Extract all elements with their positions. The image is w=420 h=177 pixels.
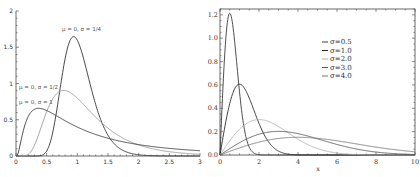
legend-label: σ=4.0	[330, 72, 352, 80]
x-tick-label: 6	[335, 158, 339, 166]
x-tick-label: 0.5	[42, 158, 52, 165]
x-tick-label: 4	[296, 158, 300, 166]
legend-label: σ=1.0	[330, 47, 352, 55]
y-tick-label: 1.2	[208, 11, 218, 19]
rayleigh-chart: 02468100.00.20.40.60.81.01.2 σ=0.5σ=1.0σ…	[208, 9, 419, 173]
y-tick-label: 1.0	[208, 34, 218, 42]
rayleigh-curve-3	[220, 120, 415, 155]
y-tick-label: 0	[9, 152, 13, 159]
y-tick-label: 1.5	[3, 43, 13, 50]
curve-annotation: μ = 0, σ = 1/2	[19, 84, 58, 91]
y-tick-label: 0.8	[208, 58, 218, 66]
y-tick-label: 1	[9, 80, 13, 87]
rayleigh-legend: σ=0.5σ=1.0σ=2.0σ=3.0σ=4.0	[322, 38, 352, 80]
rayleigh-curves	[220, 13, 415, 155]
x-tick-label: 0	[14, 158, 18, 165]
plot-frame	[220, 9, 415, 155]
x-tick-label: 1	[75, 158, 79, 165]
legend-label: σ=0.5	[330, 38, 352, 46]
y-tick-label: 2	[9, 7, 13, 14]
x-tick-label: 2	[257, 158, 261, 166]
y-tick-label: 0.6	[208, 81, 218, 89]
x-tick-label: 8	[374, 158, 378, 166]
x-tick-label: 3	[198, 158, 202, 165]
lognormal-curves	[16, 37, 200, 156]
lognormal-chart: 00.511.522.5300.511.52 μ = 0, σ = 1/4μ =…	[3, 7, 202, 165]
y-tick-label: 0.4	[208, 104, 218, 112]
y-tick-label: 0.0	[208, 151, 218, 159]
rayleigh-curve-4	[220, 131, 415, 155]
legend-label: σ=2.0	[330, 55, 352, 63]
x-tick-label: 2.5	[165, 158, 175, 165]
curve-annotation: μ = 0, σ = 1/4	[62, 26, 102, 33]
legend-label: σ=3.0	[330, 64, 352, 72]
x-tick-label: 2	[137, 158, 141, 165]
curve-annotation: μ = 0, σ = 1	[19, 99, 53, 106]
rayleigh-x-axis-label: x	[316, 165, 320, 173]
charts-canvas: 00.511.522.5300.511.52 μ = 0, σ = 1/4μ =…	[0, 0, 420, 177]
rayleigh-curve-1	[220, 13, 415, 155]
y-tick-label: 0.2	[208, 128, 218, 136]
lognormal-curve-3	[16, 108, 200, 156]
x-tick-label: 0	[218, 158, 222, 166]
y-tick-label: 0.5	[3, 116, 13, 123]
lognormal-annotations: μ = 0, σ = 1/4μ = 0, σ = 1/2μ = 0, σ = 1	[19, 26, 101, 106]
x-tick-label: 1.5	[103, 158, 113, 165]
x-tick-label: 10	[411, 158, 419, 166]
